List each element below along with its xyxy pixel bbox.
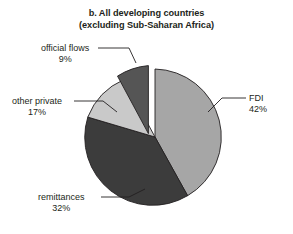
pie-chart-figure: b. All developing countries (excluding S…: [0, 0, 293, 234]
pie-label-other-private: other private 17%: [12, 96, 62, 117]
pie-label-fdi: FDI 42%: [249, 93, 267, 114]
pie-label-other-private-name: other private: [12, 96, 62, 106]
pie-label-fdi-name: FDI: [249, 93, 264, 103]
pie-label-remittances-name: remittances: [38, 192, 85, 202]
pie-label-official-flows-name: official flows: [41, 43, 89, 53]
pie-label-official-flows-value: 9%: [41, 54, 89, 65]
pie-label-remittances-value: 32%: [38, 203, 85, 214]
leader-line-official-flows: [98, 48, 136, 63]
pie-label-remittances: remittances 32%: [38, 192, 85, 213]
pie-label-other-private-value: 17%: [12, 107, 62, 118]
pie-label-official-flows: official flows 9%: [41, 43, 89, 64]
pie-label-fdi-value: 42%: [249, 104, 267, 115]
